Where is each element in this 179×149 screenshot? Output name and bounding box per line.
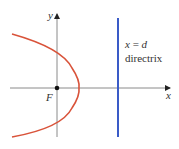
parabola-diagram: y x F x = d directrix	[0, 0, 179, 149]
directrix-equation-eq: =	[130, 38, 142, 50]
focus-label: F	[45, 91, 53, 103]
directrix-label: directrix	[125, 52, 163, 64]
x-axis-label: x	[165, 89, 171, 101]
y-axis-label: y	[47, 9, 53, 21]
directrix-equation: x = d	[124, 38, 148, 50]
directrix-equation-val: d	[142, 38, 148, 50]
parabola-curve	[12, 34, 79, 137]
focus-point	[55, 86, 60, 91]
